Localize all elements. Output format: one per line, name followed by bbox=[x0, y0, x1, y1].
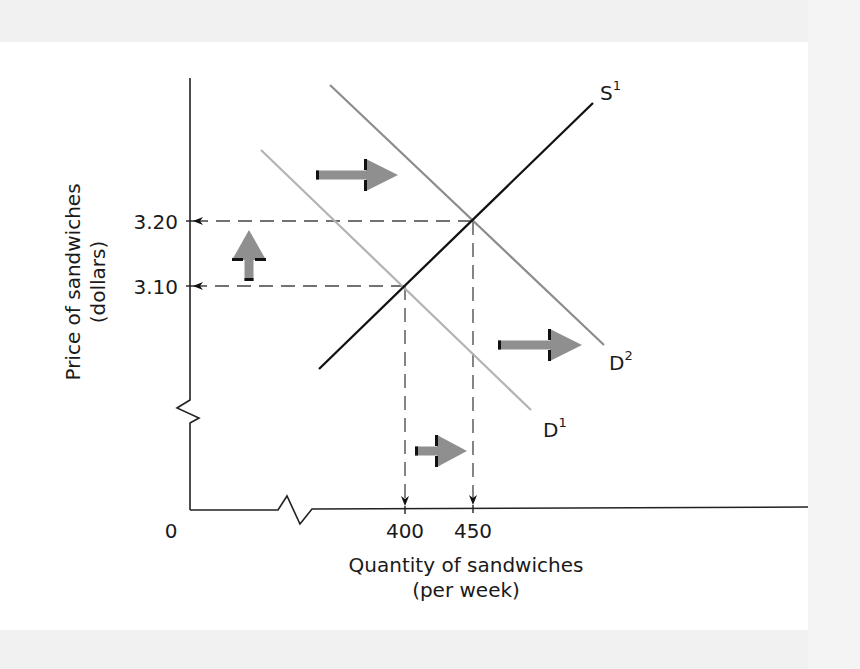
y-axis-subtitle: (dollars) bbox=[86, 241, 110, 324]
shift-arrow-right-icon bbox=[316, 159, 398, 191]
y-tick-label-310: 3.10 bbox=[133, 275, 178, 299]
y-axis-title: Price of sandwiches bbox=[61, 183, 85, 380]
x-axis-title: Quantity of sandwiches bbox=[349, 553, 584, 577]
curve-label-d1: D1 bbox=[543, 415, 567, 442]
x-tick-label-400: 400 bbox=[386, 519, 424, 543]
demand-curve-d1 bbox=[261, 150, 531, 410]
x-axis bbox=[190, 496, 808, 524]
demand-curve-d2 bbox=[330, 85, 604, 345]
y-axis bbox=[177, 78, 199, 510]
x-tick-label-450: 450 bbox=[454, 519, 492, 543]
shift-arrow-right-icon bbox=[415, 435, 467, 467]
supply-curve-s1 bbox=[319, 103, 593, 369]
supply-demand-chart: 3.20 3.10 400 450 0 Quantity of sandwich… bbox=[0, 0, 860, 669]
curve-label-d1-main: D bbox=[543, 418, 558, 442]
curve-label-d2-sup: 2 bbox=[624, 348, 632, 363]
origin-label: 0 bbox=[165, 519, 178, 543]
curve-label-d1-sup: 1 bbox=[558, 415, 566, 430]
curve-label-d2: D2 bbox=[609, 348, 633, 375]
curve-label-s1: S1 bbox=[600, 78, 621, 105]
shift-arrow-right-icon bbox=[498, 329, 582, 361]
x-axis-subtitle: (per week) bbox=[412, 578, 520, 602]
y-tick-label-320: 3.20 bbox=[133, 210, 178, 234]
curve-label-s1-sup: 1 bbox=[613, 78, 621, 93]
curve-label-s1-main: S bbox=[600, 81, 613, 105]
curve-label-d2-main: D bbox=[609, 351, 624, 375]
shift-arrow-up-icon bbox=[232, 230, 266, 281]
